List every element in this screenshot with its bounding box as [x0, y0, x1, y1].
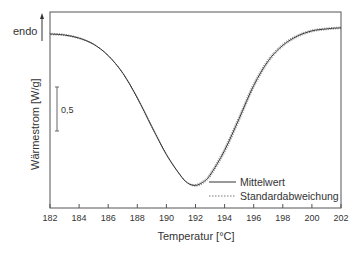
x-axis-label: Temperatur [°C]	[157, 230, 234, 242]
std-lower-line	[51, 29, 342, 187]
legend-mean-label: Mittelwert	[240, 176, 285, 188]
x-tick-label: 186	[101, 213, 116, 223]
mean-line	[50, 28, 341, 186]
x-tick-label: 198	[275, 213, 290, 223]
x-tick-label: 196	[246, 213, 261, 223]
x-tick-label: 184	[72, 213, 87, 223]
x-tick-label: 188	[130, 213, 145, 223]
y-axis-label: Wärmestrom [W/g]	[29, 78, 41, 170]
scale-bar-label: 0,5	[61, 105, 74, 115]
x-tick-label: 182	[42, 213, 57, 223]
x-tick-label: 200	[304, 213, 319, 223]
x-tick-label: 190	[159, 213, 174, 223]
legend: Mittelwert Standardabweichung	[209, 176, 339, 202]
dsc-chart: 182184186188190192194196198200202 endo 0…	[0, 0, 362, 255]
x-tick-label: 194	[217, 213, 232, 223]
plot-frame	[50, 12, 341, 208]
endo-label: endo	[13, 25, 37, 37]
endo-arrow-icon	[40, 13, 44, 41]
x-tick-label: 202	[333, 213, 348, 223]
legend-std-label: Standardabweichung	[240, 190, 339, 202]
x-axis-ticks: 182184186188190192194196198200202	[42, 204, 348, 223]
std-upper-line	[49, 27, 340, 185]
scale-bar	[55, 87, 59, 131]
x-tick-label: 192	[188, 213, 203, 223]
